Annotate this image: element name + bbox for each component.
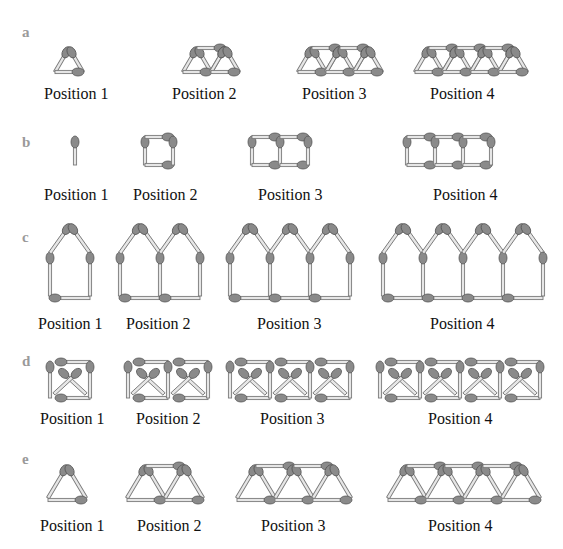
match-head xyxy=(86,252,94,264)
matchstick xyxy=(276,136,284,165)
matchstick xyxy=(248,136,256,165)
matchstick xyxy=(479,222,506,255)
match-head xyxy=(235,358,247,366)
match-head xyxy=(340,496,352,504)
matchstick xyxy=(315,358,350,366)
matchstick xyxy=(487,136,495,165)
matchstick xyxy=(183,68,212,76)
match-head xyxy=(315,394,327,402)
match-head xyxy=(536,361,544,373)
match-head xyxy=(228,68,240,76)
matchstick xyxy=(309,294,350,302)
match-head xyxy=(465,358,477,366)
match-head xyxy=(422,294,434,302)
match-head xyxy=(456,361,464,373)
match-head xyxy=(156,252,164,264)
match-head xyxy=(315,358,327,366)
matchstick xyxy=(237,496,276,504)
match-head xyxy=(379,252,387,264)
match-head xyxy=(192,496,204,504)
match-head xyxy=(55,394,67,402)
match-head xyxy=(505,394,517,402)
matchstick xyxy=(211,68,240,76)
match-head xyxy=(55,358,67,366)
matchstick xyxy=(55,68,84,76)
match-head xyxy=(376,361,384,373)
matchstick xyxy=(252,463,278,500)
match-head xyxy=(46,252,54,264)
matchstick xyxy=(63,463,89,500)
matchstick xyxy=(382,294,423,302)
matchstick xyxy=(290,463,316,500)
matchstick xyxy=(519,222,546,255)
match-head xyxy=(235,394,247,402)
match-head xyxy=(133,394,145,402)
figure-group xyxy=(45,44,547,504)
matchstick xyxy=(306,252,314,296)
matchstick xyxy=(235,358,270,366)
match-head xyxy=(133,358,145,366)
match-head xyxy=(159,294,171,302)
match-head xyxy=(505,358,517,366)
matchstick xyxy=(46,252,54,296)
matchstick xyxy=(252,161,281,169)
matchstick xyxy=(502,496,541,504)
matchstick xyxy=(275,358,310,366)
matchstick xyxy=(165,496,204,504)
matchstick xyxy=(226,252,234,296)
match-head xyxy=(385,358,397,366)
matchstick xyxy=(505,358,540,366)
matchstick xyxy=(385,358,420,366)
matchstick xyxy=(379,252,387,296)
match-head xyxy=(309,294,321,302)
matchstick xyxy=(471,68,500,76)
match-head xyxy=(269,294,281,302)
matchstick xyxy=(459,136,467,165)
match-head xyxy=(465,394,477,402)
matchstick xyxy=(136,222,163,255)
match-head xyxy=(226,361,234,373)
match-head xyxy=(304,136,312,148)
matchstick xyxy=(169,136,177,165)
matchstick xyxy=(86,252,94,296)
matchstick xyxy=(280,161,309,169)
match-head xyxy=(204,361,212,373)
matchstick xyxy=(71,136,79,165)
match-head xyxy=(306,252,314,264)
matchstick xyxy=(156,252,164,296)
match-head xyxy=(173,358,185,366)
match-head xyxy=(164,361,172,373)
matchstick xyxy=(127,496,166,504)
matchstick xyxy=(399,222,426,255)
matchstick xyxy=(326,222,353,255)
matchstick xyxy=(196,252,204,296)
match-head xyxy=(75,496,87,504)
match-head xyxy=(416,361,424,373)
match-head xyxy=(529,496,541,504)
match-head xyxy=(229,294,241,302)
matchstick xyxy=(159,294,200,302)
matchstick xyxy=(173,358,208,366)
matchstick xyxy=(328,463,354,500)
matchstick xyxy=(464,496,503,504)
matchstick xyxy=(403,463,429,500)
match-head xyxy=(462,294,474,302)
matchstick xyxy=(133,358,168,366)
matchstick xyxy=(463,161,492,169)
match-head xyxy=(487,136,495,148)
match-head xyxy=(119,294,131,302)
matchstick xyxy=(275,496,314,504)
matchstick xyxy=(176,222,203,255)
matchstick xyxy=(499,252,507,296)
match-head xyxy=(72,68,84,76)
match-head xyxy=(266,252,274,264)
match-head xyxy=(425,394,437,402)
match-head xyxy=(86,361,94,373)
match-head xyxy=(46,361,54,373)
matchstick xyxy=(326,68,355,76)
match-head xyxy=(502,294,514,302)
match-head xyxy=(496,361,504,373)
matchstick xyxy=(517,463,543,500)
matchstick xyxy=(246,222,273,255)
match-head xyxy=(306,361,314,373)
